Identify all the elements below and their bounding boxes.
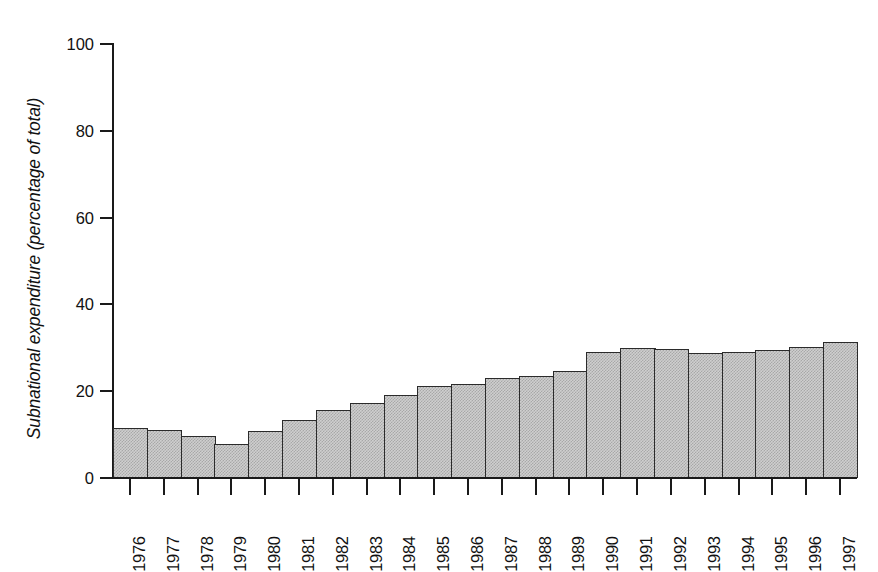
x-axis-tick	[366, 479, 368, 495]
x-axis-tick-labels: 1976197719781979198019811982198319841985…	[113, 498, 857, 560]
page-caption-remnant	[18, 565, 638, 572]
x-axis-label-cell: 1982	[316, 498, 350, 560]
x-axis-tick	[738, 479, 740, 495]
x-axis-label-cell: 1985	[417, 498, 451, 560]
x-axis-tick	[670, 479, 672, 495]
x-axis-tick-cell	[519, 479, 553, 495]
y-axis-tick-label: 80	[40, 123, 94, 140]
x-axis-tick-cell	[485, 479, 519, 495]
x-axis-label-cell: 1987	[485, 498, 519, 560]
y-axis-tick-label: 20	[40, 383, 94, 400]
x-axis-tick-cell	[451, 479, 485, 495]
x-axis-tick-cell	[350, 479, 384, 495]
x-axis-tick-cell	[688, 479, 722, 495]
x-axis-tick-cell	[248, 479, 282, 495]
bar	[722, 352, 757, 478]
y-axis-tick-label: 60	[40, 210, 94, 227]
bar	[485, 378, 520, 478]
bar	[519, 376, 554, 478]
x-axis-label-cell: 1979	[214, 498, 248, 560]
bar	[553, 371, 588, 478]
bar	[451, 384, 486, 478]
x-axis-tick-cell	[181, 479, 215, 495]
plot-area	[113, 44, 857, 478]
bar	[214, 444, 249, 478]
x-axis-tick-cell	[214, 479, 248, 495]
x-axis-tick-cell	[722, 479, 756, 495]
x-axis-tick	[771, 479, 773, 495]
bar	[755, 350, 790, 478]
x-axis-tick-cell	[620, 479, 654, 495]
y-axis-tick-label: 40	[40, 296, 94, 313]
x-axis-tick	[568, 479, 570, 495]
x-axis-tick	[535, 479, 537, 495]
x-axis-tick	[197, 479, 199, 495]
x-axis-tick-cell	[316, 479, 350, 495]
x-axis-tick-cell	[147, 479, 181, 495]
bar	[823, 342, 858, 478]
x-axis-label-cell: 1989	[553, 498, 587, 560]
x-axis-label-cell: 1992	[654, 498, 688, 560]
bar	[248, 431, 283, 478]
y-axis-tick-label: 0	[40, 470, 94, 487]
x-axis-tick	[636, 479, 638, 495]
x-axis-tick	[501, 479, 503, 495]
x-axis-tick-cell	[823, 479, 857, 495]
x-axis-tick-cell	[755, 479, 789, 495]
x-axis-tick	[163, 479, 165, 495]
x-axis-tick-cell	[789, 479, 823, 495]
bar	[282, 420, 317, 478]
x-axis-label-cell: 1994	[722, 498, 756, 560]
x-axis-tick-cell	[113, 479, 147, 495]
x-axis-label-cell: 1986	[451, 498, 485, 560]
bar-chart: Subnational expenditure (percentage of t…	[0, 0, 878, 572]
x-axis-label-cell: 1980	[248, 498, 282, 560]
x-axis-tick-cell	[282, 479, 316, 495]
x-axis-tick-cell	[654, 479, 688, 495]
bar	[586, 352, 621, 478]
x-axis-tick	[839, 479, 841, 495]
x-axis-label-cell: 1978	[181, 498, 215, 560]
x-axis-tick-cell	[384, 479, 418, 495]
x-axis-tick	[467, 479, 469, 495]
bar	[147, 430, 182, 478]
x-axis-tick	[704, 479, 706, 495]
x-axis-tick	[399, 479, 401, 495]
x-axis-tick	[230, 479, 232, 495]
x-axis-tick	[298, 479, 300, 495]
bar	[417, 386, 452, 478]
x-axis-label-cell: 1981	[282, 498, 316, 560]
x-axis-tick	[332, 479, 334, 495]
x-axis-label-cell: 1996	[789, 498, 823, 560]
bar	[113, 428, 148, 478]
x-axis-label-cell: 1990	[586, 498, 620, 560]
bar-series	[113, 44, 857, 478]
x-axis-ticks	[113, 479, 857, 495]
x-axis-tick-cell	[417, 479, 451, 495]
x-axis-label-cell: 1976	[113, 498, 147, 560]
x-axis-label-cell: 1988	[519, 498, 553, 560]
x-axis-label-cell: 1977	[147, 498, 181, 560]
x-axis-tick	[602, 479, 604, 495]
x-axis-tick-cell	[553, 479, 587, 495]
x-axis-label-cell: 1991	[620, 498, 654, 560]
bar	[654, 349, 689, 478]
x-axis-tick-cell	[586, 479, 620, 495]
x-axis-label-cell: 1993	[688, 498, 722, 560]
bar	[350, 403, 385, 478]
bar	[316, 410, 351, 478]
bar	[688, 353, 723, 478]
y-axis-title: Subnational expenditure (percentage of t…	[24, 49, 45, 489]
x-axis-tick	[129, 479, 131, 495]
x-axis-tick	[264, 479, 266, 495]
y-axis-tick-label: 100	[40, 36, 94, 53]
x-axis-label-cell: 1984	[384, 498, 418, 560]
x-axis-label-cell: 1983	[350, 498, 384, 560]
x-axis-tick	[805, 479, 807, 495]
x-axis-label-cell: 1997	[823, 498, 857, 560]
x-axis-tick-label: 1997	[840, 536, 859, 572]
x-axis-tick	[433, 479, 435, 495]
bar	[384, 395, 419, 478]
bar	[789, 347, 824, 478]
x-axis-label-cell: 1995	[755, 498, 789, 560]
